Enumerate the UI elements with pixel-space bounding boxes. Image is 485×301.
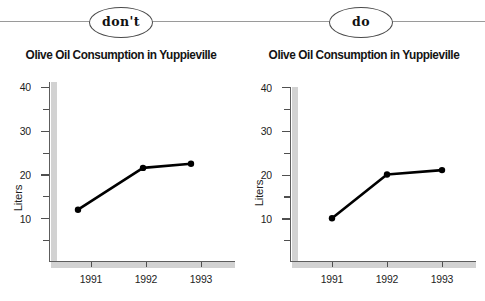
plot-area-right: 10 20 30 40 1991 1992 1993 <box>290 87 476 260</box>
chart-title-left: Olive Oil Consumption in Yuppieville <box>5 48 236 62</box>
x-tick-label-right-1993: 1993 <box>422 272 462 285</box>
y-tick-label-left-40: 40 <box>8 80 31 93</box>
y-tick-label-left-10: 10 <box>8 212 31 225</box>
x-tick-label-right-1992: 1992 <box>367 272 407 285</box>
y-tick-major-right-20 <box>282 175 290 176</box>
y-tick-major-right-10 <box>282 218 290 219</box>
figure-root: don't do Olive Oil Consumption in Yuppie… <box>0 0 485 301</box>
dont-do-banner: don't do <box>0 0 485 44</box>
data-point-right-1991 <box>329 215 335 221</box>
banner-rule <box>0 21 485 22</box>
series-line-right <box>290 87 476 268</box>
y-tick-label-left-30: 30 <box>8 124 31 137</box>
y-tick-major-left-30 <box>41 131 49 132</box>
y-tick-major-left-40 <box>41 87 49 88</box>
y-tick-label-left-20: 20 <box>8 168 31 181</box>
y-tick-label-right-30: 30 <box>249 124 272 137</box>
x-tick-label-left-1993: 1993 <box>181 272 221 285</box>
chart-panel-do: Olive Oil Consumption in Yuppieville Lit… <box>243 44 485 301</box>
chart-panel-dont: Olive Oil Consumption in Yuppieville Lit… <box>0 44 242 301</box>
x-tick-label-left-1991: 1991 <box>71 272 111 285</box>
y-tick-major-right-40 <box>282 87 290 88</box>
badge-do: do <box>329 7 393 38</box>
badge-dont: don't <box>89 7 153 38</box>
series-line-left <box>49 82 235 268</box>
x-tick-label-right-1991: 1991 <box>312 272 352 285</box>
y-tick-label-right-40: 40 <box>249 81 272 94</box>
badge-dont-label: don't <box>102 16 140 29</box>
plot-area-left: 10 20 30 40 1991 1992 1993 <box>49 82 235 260</box>
x-tick-label-left-1992: 1992 <box>126 272 166 285</box>
data-point-right-1992 <box>384 171 390 177</box>
data-point-left-1993 <box>188 161 194 167</box>
y-tick-major-right-30 <box>282 131 290 132</box>
badge-do-label: do <box>352 16 370 29</box>
y-tick-major-left-10 <box>41 218 49 219</box>
data-point-left-1991 <box>75 207 81 213</box>
data-point-left-1992 <box>140 165 146 171</box>
y-tick-label-right-10: 10 <box>249 212 272 225</box>
y-tick-label-right-20: 20 <box>249 168 272 181</box>
y-tick-major-left-20 <box>41 174 49 175</box>
data-point-right-1993 <box>439 167 445 173</box>
chart-title-right: Olive Oil Consumption in Yuppieville <box>248 48 479 62</box>
